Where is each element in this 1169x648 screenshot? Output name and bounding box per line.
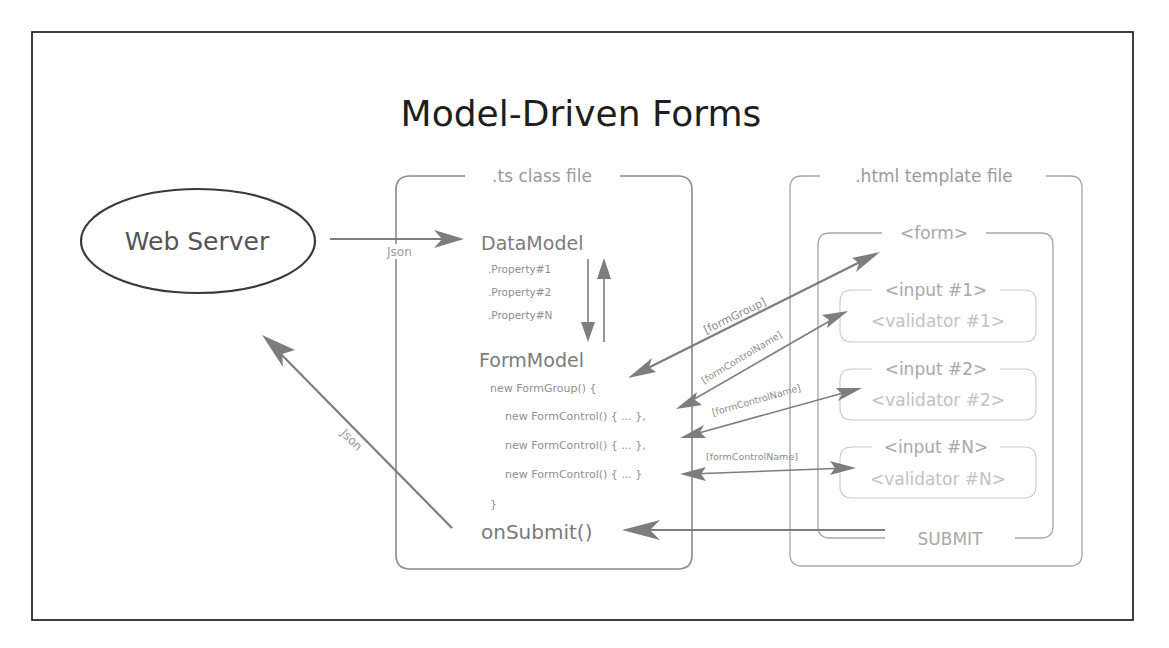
- submit-label: SUBMIT: [918, 529, 984, 549]
- form-tag-label: <form>: [900, 223, 968, 243]
- html-template-file-label: .html template file: [855, 166, 1013, 186]
- input-n-label: <input #N>: [884, 437, 989, 457]
- web-server-label: Web Server: [125, 227, 270, 256]
- json-in-label: Json: [386, 245, 412, 259]
- form-group-code: new FormGroup() {: [490, 382, 597, 395]
- on-submit-label: onSubmit(): [481, 520, 592, 544]
- form-control-code-n: new FormControl() { ... }: [505, 468, 642, 481]
- property-1: .Property#1: [488, 263, 551, 275]
- diagram-title: Model-Driven Forms: [401, 93, 762, 134]
- validator-n-label: <validator #N>: [870, 469, 1006, 489]
- form-group-close: }: [490, 498, 497, 511]
- property-n: .Property#N: [488, 309, 552, 321]
- validator-1-label: <validator #1>: [871, 311, 1005, 331]
- input-1-label: <input #1>: [885, 280, 988, 300]
- validator-2-label: <validator #2>: [871, 390, 1005, 410]
- data-model-label: DataModel: [481, 232, 583, 254]
- property-2: .Property#2: [488, 286, 551, 298]
- form-control-code-2: new FormControl() { ... },: [505, 439, 646, 452]
- form-model-label: FormModel: [479, 349, 584, 371]
- ts-class-file-label: .ts class file: [492, 166, 592, 186]
- model-driven-forms-diagram: Model-Driven Forms Web Server .ts class …: [0, 0, 1169, 648]
- form-control-n-label: [formControlName]: [706, 451, 798, 462]
- web-server-node: Web Server: [81, 189, 315, 293]
- input-2-label: <input #2>: [885, 359, 988, 379]
- form-control-code-1: new FormControl() { ... },: [505, 410, 646, 423]
